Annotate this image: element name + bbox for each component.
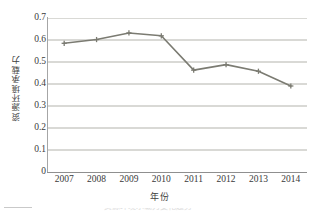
data-point-marker	[126, 30, 131, 35]
y-axis-tick-label: 0.4	[34, 79, 46, 89]
y-axis-tick-label: 0.7	[34, 13, 46, 23]
clipped-caption-text: 资源环境承载力变化趋势	[104, 205, 192, 211]
y-axis-tick-labels: 00.10.20.30.40.50.60.7	[22, 0, 46, 213]
y-axis-tick-label: 0.5	[34, 57, 46, 67]
x-axis-tick-label: 2014	[281, 175, 300, 185]
y-axis-tick-label: 0	[41, 167, 46, 177]
x-axis-tick-label: 2010	[152, 175, 171, 185]
caption-rule	[4, 207, 32, 208]
clipped-caption-row: 资源环境承载力变化趋势	[0, 205, 319, 213]
y-axis-title-text: 资源环境承载力	[13, 55, 22, 121]
y-axis-tick-label: 0.3	[34, 101, 46, 111]
data-point-marker	[223, 62, 228, 67]
x-axis-title-text: 年份	[150, 192, 169, 202]
x-axis-tick-label: 2013	[249, 175, 268, 185]
y-axis-tick-label: 0.1	[34, 145, 46, 155]
data-series-line	[48, 18, 307, 172]
data-point-marker	[256, 69, 261, 74]
x-axis-tick-labels: 20072008200920102011201220132014	[48, 175, 307, 191]
data-point-marker	[288, 83, 293, 88]
y-axis-tick-label: 0.2	[34, 123, 46, 133]
x-axis-tick-label: 2009	[119, 175, 138, 185]
data-point-marker	[62, 41, 67, 46]
x-axis-tick-label: 2008	[87, 175, 106, 185]
chart-figure: 资源环境承载力 00.10.20.30.40.50.60.7 200720082…	[0, 0, 319, 213]
y-axis-tick-label: 0.6	[34, 35, 46, 45]
data-point-marker	[94, 37, 99, 42]
x-axis-line	[47, 172, 307, 173]
x-axis-tick-label: 2011	[184, 175, 203, 185]
x-axis-tick-label: 2012	[217, 175, 236, 185]
series-polyline	[64, 33, 291, 86]
x-axis-tick-label: 2007	[55, 175, 74, 185]
plot-area	[48, 18, 307, 172]
x-axis-title: 年份	[0, 190, 319, 203]
